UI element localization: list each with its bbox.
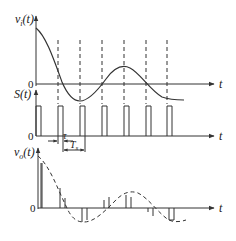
vo-x-label: t [219, 201, 223, 215]
vi-y-label: vi(t) [15, 12, 34, 28]
tau-label: τ [63, 130, 67, 141]
vo-zero-label: 0 [30, 202, 36, 214]
input-signal-plot: vi(t) 0 t [15, 12, 223, 104]
vi-x-label: t [219, 77, 223, 91]
output-signal-plot: vo(t) 0 t [14, 145, 223, 222]
s-x-label: t [219, 129, 223, 143]
sampling-pulse-plot: S(t) 0 t τ Ts [14, 87, 223, 152]
sampling-diagram: vi(t) 0 t S(t) 0 t τ Ts vo(t) 0 t [0, 0, 236, 241]
vo-samples [41, 163, 174, 222]
vo-y-label: vo(t) [14, 145, 35, 161]
s-zero-label: 0 [28, 130, 34, 142]
pulse-train [36, 106, 172, 136]
s-y-label: S(t) [14, 87, 31, 101]
